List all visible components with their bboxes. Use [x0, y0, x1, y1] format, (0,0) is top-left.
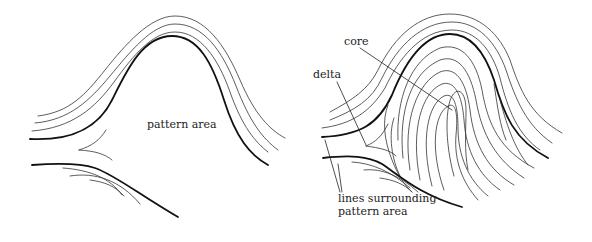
right-outer-ridge-1 — [330, 14, 562, 133]
left-panel-ridges — [30, 16, 285, 217]
left-outer-ridge-2 — [35, 24, 278, 150]
right-core-loop — [447, 91, 468, 176]
core-label: core — [344, 35, 369, 48]
left-outer-ridge-3 — [32, 32, 268, 152]
lines-surrounding-label-line2: pattern area — [338, 205, 408, 218]
right-lower-ridge-3 — [380, 178, 412, 192]
left-delta-stroke-2 — [79, 150, 112, 160]
pattern-area-label: pattern area — [147, 118, 217, 131]
right-loop-ridge-3 — [408, 71, 514, 185]
left-delta-stroke-1 — [79, 130, 106, 150]
left-boundary-ridge-lower — [32, 164, 178, 217]
leader-lines — [325, 48, 452, 192]
left-lower-ridge-3 — [90, 180, 124, 196]
left-boundary-ridge-upper — [30, 36, 268, 165]
lines-surrounding-label-line1: lines surrounding — [338, 192, 437, 205]
diagram-canvas — [0, 0, 592, 242]
left-lower-ridge-1 — [63, 168, 122, 195]
delta-label: delta — [313, 68, 341, 81]
core-leader-line — [360, 48, 452, 110]
right-lower-ridge-2 — [364, 170, 418, 192]
lines-leader-line-1 — [325, 140, 340, 192]
